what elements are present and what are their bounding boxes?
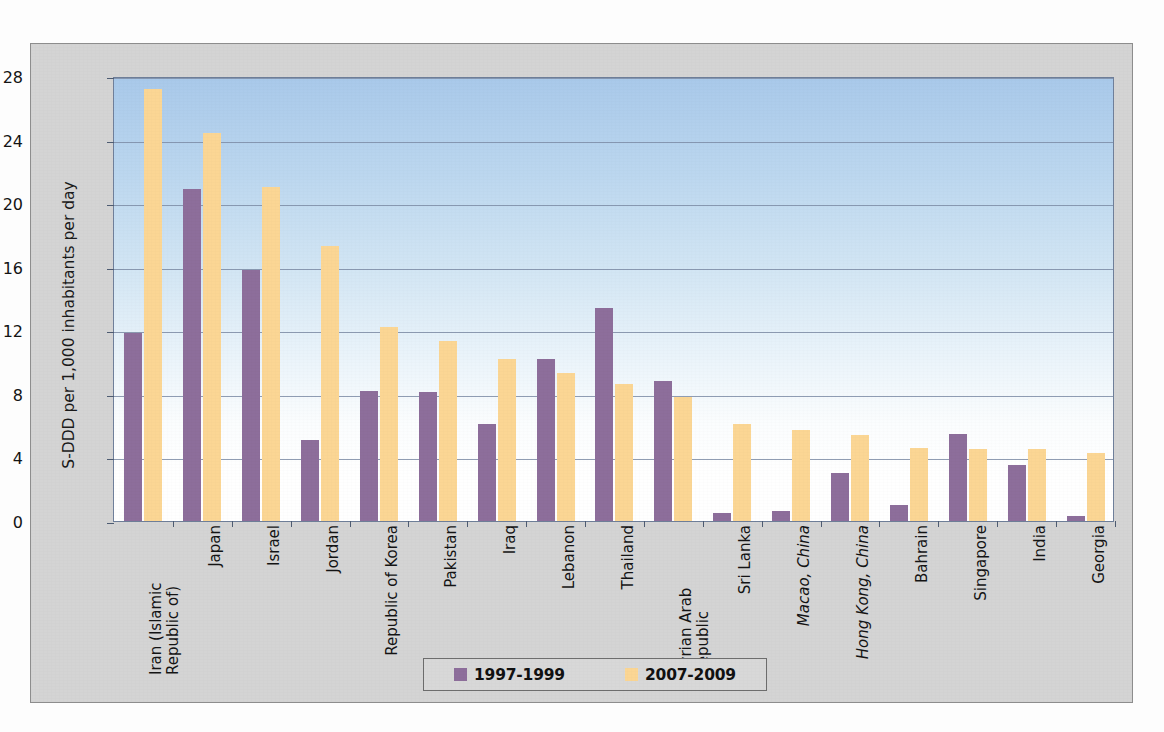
bar-group: [703, 78, 762, 521]
y-tick-label: 20: [0, 195, 23, 214]
bar: [380, 327, 398, 521]
y-tick-mark: [107, 459, 114, 460]
y-tick-mark: [107, 396, 114, 397]
screenshot-canvas: S-DDD per 1,000 inhabitants per day 0481…: [0, 0, 1164, 732]
x-axis-label: Singapore: [973, 525, 990, 601]
bar: [537, 359, 555, 521]
bar: [419, 392, 437, 521]
x-axis-label: Syrian Arab Republic: [678, 525, 712, 675]
chart-frame: S-DDD per 1,000 inhabitants per day 0481…: [30, 43, 1133, 703]
x-axis-label: Iran (Islamic Republic of): [148, 525, 182, 675]
legend-entry[interactable]: 1997-1999: [454, 666, 565, 684]
bar: [1028, 449, 1046, 521]
bar: [733, 424, 751, 521]
x-axis-label: Thailand: [620, 525, 637, 589]
bar: [203, 133, 221, 521]
bar: [674, 397, 692, 521]
bar-group: [879, 78, 938, 521]
y-tick-label: 4: [0, 449, 23, 468]
legend-entry[interactable]: 2007-2009: [625, 666, 736, 684]
bar-group: [350, 78, 409, 521]
legend-swatch: [625, 668, 638, 681]
x-axis-label: Hong Kong, China: [855, 525, 872, 659]
y-tick-mark: [107, 332, 114, 333]
bar: [949, 434, 967, 521]
bar: [183, 189, 201, 521]
y-tick-mark: [107, 205, 114, 206]
bar-group: [997, 78, 1056, 521]
x-axis-label: Georgia: [1091, 525, 1108, 584]
y-tick-mark: [107, 269, 114, 270]
bar: [654, 381, 672, 521]
bar-group: [114, 78, 173, 521]
x-tick-mark: [1115, 521, 1116, 527]
x-axis-label: Jordan: [325, 525, 342, 573]
y-tick-label: 24: [0, 132, 23, 151]
y-tick-label: 0: [0, 513, 23, 532]
legend-swatch: [454, 668, 467, 681]
x-axis-label: Lebanon: [561, 525, 578, 589]
bar: [124, 333, 142, 521]
bar-group: [526, 78, 585, 521]
x-axis-label: Iraq: [502, 525, 519, 554]
bar: [615, 384, 633, 521]
x-axis-label: Macao, China: [796, 525, 813, 626]
bar: [498, 359, 516, 521]
y-tick-label: 12: [0, 322, 23, 341]
bars-layer: [114, 78, 1113, 521]
bar: [262, 187, 280, 521]
bar: [439, 341, 457, 521]
bar: [969, 449, 987, 521]
y-axis-title: S-DDD per 1,000 inhabitants per day: [60, 145, 78, 505]
bar: [890, 505, 908, 521]
bar: [713, 513, 731, 521]
legend-label: 2007-2009: [645, 666, 736, 684]
y-tick-mark: [107, 142, 114, 143]
bar-group: [467, 78, 526, 521]
bar: [1008, 465, 1026, 521]
bar: [478, 424, 496, 521]
bar: [1087, 453, 1105, 521]
x-axis-label: Japan: [207, 525, 224, 567]
bar-group: [585, 78, 644, 521]
bar: [910, 448, 928, 521]
x-axis-label: India: [1032, 525, 1049, 562]
y-tick-label: 16: [0, 259, 23, 278]
legend-label: 1997-1999: [474, 666, 565, 684]
x-axis-label: Republic of Korea: [384, 525, 401, 656]
bar: [360, 391, 378, 521]
bar: [851, 435, 869, 521]
bar-group: [821, 78, 880, 521]
y-tick-mark: [107, 523, 114, 524]
bar-group: [232, 78, 291, 521]
plot-area: 0481216202428: [113, 77, 1114, 522]
bar-group: [938, 78, 997, 521]
x-axis-label: Sri Lanka: [737, 525, 754, 594]
bar-group: [408, 78, 467, 521]
bar: [595, 308, 613, 521]
y-tick-label: 8: [0, 386, 23, 405]
y-tick-mark: [107, 78, 114, 79]
bar: [772, 511, 790, 521]
bar: [144, 89, 162, 521]
bar: [242, 270, 260, 521]
bar: [792, 430, 810, 521]
bar: [301, 440, 319, 521]
bar-group: [291, 78, 350, 521]
y-tick-label: 28: [0, 68, 23, 87]
bar: [1067, 516, 1085, 521]
bar-group: [644, 78, 703, 521]
bar: [831, 473, 849, 521]
chart-legend: 1997-19992007-2009: [423, 658, 767, 691]
x-axis-label: Pakistan: [443, 525, 460, 588]
x-axis-label: Israel: [266, 525, 283, 566]
bar-group: [1056, 78, 1115, 521]
bar-group: [762, 78, 821, 521]
bar-group: [173, 78, 232, 521]
bar: [557, 373, 575, 521]
x-axis-label: Bahrain: [914, 525, 931, 583]
bar: [321, 246, 339, 521]
